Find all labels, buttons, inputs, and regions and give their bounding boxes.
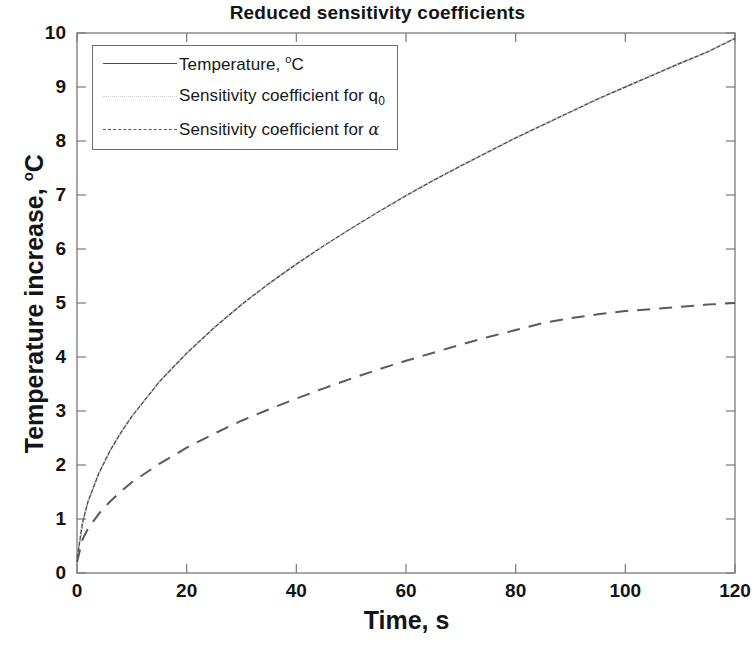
x-tick-label: 0 [42, 581, 112, 600]
y-tick-label: 2 [20, 455, 66, 474]
legend[interactable]: Temperature, oC Sensitivity coefficient … [92, 45, 398, 150]
x-tick-label: 40 [261, 581, 331, 600]
x-tick-label: 100 [590, 581, 660, 600]
y-tick-label: 7 [20, 185, 66, 204]
legend-label-q0: Sensitivity coefficient for q0 [179, 86, 385, 108]
x-tick-label: 60 [371, 581, 441, 600]
y-tick-label: 5 [20, 293, 66, 312]
legend-label-alpha: Sensitivity coefficient for α [179, 120, 379, 140]
legend-line-dashed-icon [101, 120, 179, 140]
y-tick-label: 9 [20, 77, 66, 96]
legend-entry-q0[interactable]: Sensitivity coefficient for q0 [93, 82, 399, 112]
y-tick-label: 6 [20, 239, 66, 258]
y-tick-label: 3 [20, 401, 66, 420]
y-tick-label: 8 [20, 131, 66, 150]
y-tick-label: 0 [20, 563, 66, 582]
figure-canvas: Reduced sensitivity coefficients Tempera… [0, 0, 755, 645]
x-tick-label: 120 [700, 581, 755, 600]
y-tick-label: 10 [20, 23, 66, 42]
legend-entry-alpha[interactable]: Sensitivity coefficient for α [93, 115, 399, 145]
legend-line-solid-icon [101, 54, 179, 74]
x-tick-label: 20 [152, 581, 222, 600]
y-tick-label: 1 [20, 509, 66, 528]
legend-entry-temperature[interactable]: Temperature, oC [93, 49, 399, 79]
series-line-2 [77, 303, 735, 562]
legend-label-temperature: Temperature, oC [179, 53, 304, 75]
legend-line-dotted-icon [101, 87, 179, 107]
y-tick-label: 4 [20, 347, 66, 366]
x-tick-label: 80 [481, 581, 551, 600]
